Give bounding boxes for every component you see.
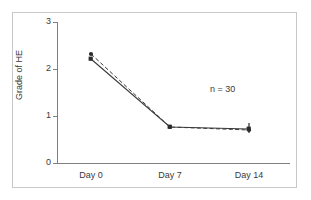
- series-dashed-marker-day-0: [89, 52, 93, 56]
- line-chart: 3 2 1 0 Grade of HE Day 0 Day 7 Day 14 n…: [0, 0, 311, 200]
- series-solid-line: [91, 59, 249, 129]
- series-layer: [0, 0, 311, 200]
- series-dashed-group: [89, 52, 251, 132]
- series-dashed-line: [91, 54, 249, 130]
- series-solid-marker-day-0: [89, 57, 93, 61]
- series-dashed-marker-day-7: [168, 125, 172, 129]
- series-solid-group: [89, 57, 251, 131]
